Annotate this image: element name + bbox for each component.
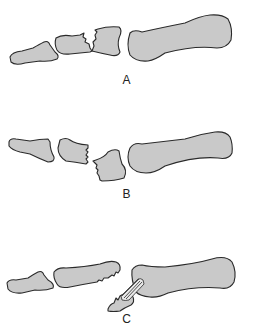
proximal-phalanx — [132, 258, 235, 298]
distal-phalanx — [7, 271, 53, 293]
middle-phalanx-fragment-1 — [55, 33, 92, 54]
distal-phalanx — [10, 41, 58, 64]
proximal-phalanx — [128, 15, 232, 61]
panel-label-b: B — [0, 187, 253, 201]
middle-phalanx-fragment-2 — [92, 27, 121, 56]
panel-c: C — [0, 220, 253, 334]
panel-a: A — [0, 0, 253, 110]
panel-label-c: C — [0, 312, 253, 326]
panel-label-a: A — [0, 73, 253, 87]
middle-phalanx — [54, 261, 120, 287]
panel-b: B — [0, 110, 253, 220]
distal-phalanx — [9, 139, 54, 162]
proximal-phalanx — [128, 132, 232, 173]
finger-bones-diagram-b — [0, 110, 253, 220]
middle-phalanx-fragment-displaced — [93, 150, 126, 181]
finger-bones-diagram-a — [0, 0, 253, 110]
middle-phalanx-fragment-1 — [58, 139, 88, 165]
